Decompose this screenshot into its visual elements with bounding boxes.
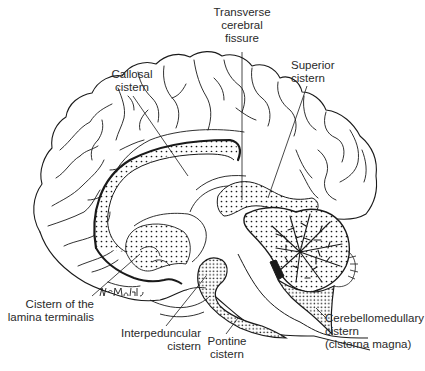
label-cistern-lamina-terminalis: Cistern of the lamina terminalis	[2, 298, 94, 324]
label-transverse-cerebral-fissure: Transverse cerebral fissure	[206, 6, 278, 45]
pontine-cistern-region	[198, 258, 286, 338]
label-superior-cistern: Superior cistern	[291, 59, 351, 85]
label-pontine-cistern: Pontine cistern	[200, 335, 254, 361]
label-cerebellomedullary-cistern: Cerebellomedullary cistern (cisterna mag…	[325, 312, 425, 351]
leader-interpeduncular	[166, 276, 206, 326]
leader-superior-cistern	[268, 86, 307, 198]
label-interpeduncular-cistern: Interpeduncular cistern	[106, 327, 201, 353]
label-callosal-cistern: Callosal cistern	[104, 68, 160, 94]
lamina-terminalis-cistern-region	[126, 224, 191, 271]
